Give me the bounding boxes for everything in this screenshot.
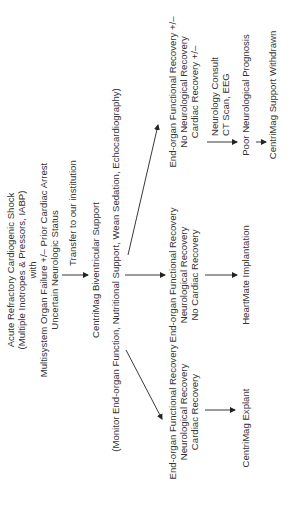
branch-cardiac-recovery: End-organ Functional Recovery Neurologic… — [167, 345, 200, 480]
branch-line: End-organ Functional Recovery — [167, 208, 178, 343]
title-block: Acute Refractory Cardiogenic Shock (Mult… — [5, 163, 60, 378]
branch-no-cardiac-recovery: End-organ Functional Recovery Neurologic… — [167, 208, 200, 343]
branch-no-neurological-recovery: End-organ Functional Recovery +/– No Neu… — [167, 16, 200, 167]
flowchart: Acute Refractory Cardiogenic Shock (Mult… — [0, 0, 292, 532]
monitor-note: (Monitor End-organ Function, Nutritional… — [110, 88, 121, 452]
title-line-3: with — [27, 163, 38, 378]
support-node: CentriMag Biventricular Support — [90, 202, 101, 338]
branch-line: Cardiac Recovery — [189, 345, 200, 480]
workup-line: CT Scan, EEG — [220, 57, 231, 136]
branch-line: End-organ Functional Recovery +/– — [167, 16, 178, 167]
transfer-label: Transfer to our institution — [67, 160, 78, 266]
title-line-4: Multisystem Organ Failure +/– Prior Card… — [38, 163, 49, 378]
branch-line: End-organ Functional Recovery — [167, 345, 178, 480]
arrow-to-right-branch — [128, 125, 158, 255]
arrow-to-left-branch — [126, 350, 162, 419]
branch-line: Neurological Recovery — [178, 345, 189, 480]
outcome-centrimag-support-withdrawn: CentriMag Support Withdrawn — [267, 31, 278, 160]
workup-line: Neurology Consult — [209, 57, 220, 136]
branch-line: Cardiac Recovery +/– — [189, 16, 200, 167]
branch-line: No Cardiac Recovery — [189, 208, 200, 343]
branch-line: Neurological Recovery — [178, 208, 189, 343]
title-line-2: (Multiple Inotropes & Pressors, IABP) — [16, 163, 27, 378]
neurology-workup: Neurology Consult CT Scan, EEG — [209, 57, 231, 136]
outcome-centrimag-explant: CentriMag Explant — [240, 389, 251, 468]
title-line-1: Acute Refractory Cardiogenic Shock — [5, 163, 16, 378]
outcome-poor-neurological-prognosis: Poor Neurological Prognosis — [240, 34, 251, 156]
branch-line: No Neurological Recovery — [178, 16, 189, 167]
title-line-5: Uncertain Neurologic Status — [49, 163, 60, 378]
outcome-heartmate-implantation: HeartMate Implantation — [240, 225, 251, 325]
